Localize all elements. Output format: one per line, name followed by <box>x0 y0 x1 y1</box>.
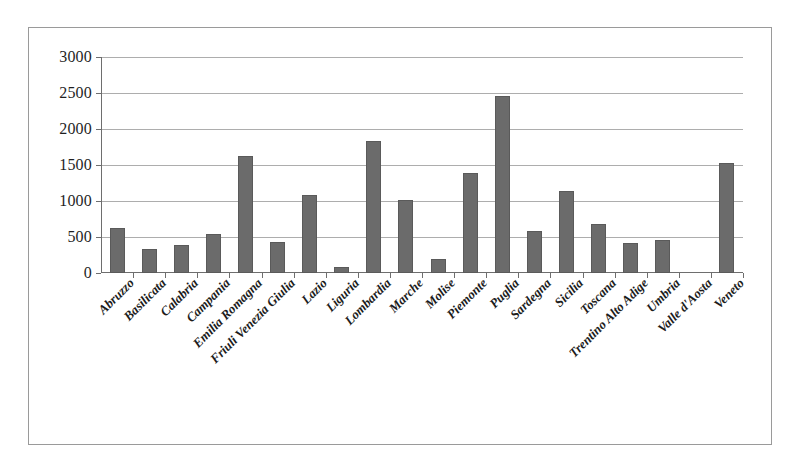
bar <box>463 173 478 273</box>
gridline <box>101 237 743 238</box>
gridline <box>101 57 743 58</box>
bar <box>174 245 189 273</box>
value-axis-tick-label: 2000 <box>59 121 92 137</box>
category-axis-tick-label: Marche <box>386 276 425 315</box>
bar <box>110 228 125 273</box>
value-axis-tick-label: 0 <box>84 265 92 281</box>
value-axis-tick <box>96 165 101 166</box>
bar <box>302 195 317 273</box>
gridline <box>101 165 743 166</box>
value-axis-tick <box>96 273 101 274</box>
plot-area: 050010001500200025003000 <box>101 57 743 273</box>
bar <box>398 200 413 273</box>
gridline <box>101 93 743 94</box>
value-axis-tick-label: 500 <box>67 229 92 245</box>
bar <box>431 259 446 273</box>
category-axis-tick <box>743 273 744 278</box>
bar <box>366 141 381 273</box>
bar <box>623 243 638 273</box>
bar <box>591 224 606 273</box>
bar <box>655 240 670 273</box>
bar <box>719 163 734 273</box>
gridline <box>101 129 743 130</box>
bar <box>495 96 510 273</box>
bar <box>334 267 349 273</box>
chart-frame: 050010001500200025003000 AbruzzoBasilica… <box>28 27 772 445</box>
value-axis-line <box>101 57 102 273</box>
category-axis-tick-label: Veneto <box>711 276 746 311</box>
value-axis-tick-label: 2500 <box>59 85 92 101</box>
value-axis-tick <box>96 129 101 130</box>
value-axis-tick <box>96 93 101 94</box>
bar <box>238 156 253 273</box>
value-axis-tick-label: 3000 <box>59 49 92 65</box>
value-axis-tick-label: 1000 <box>59 193 92 209</box>
bar <box>142 249 157 273</box>
bar <box>559 191 574 273</box>
bar <box>527 231 542 273</box>
category-axis-tick-labels: AbruzzoBasilicataCalabriaCampaniaEmilia … <box>101 276 743 426</box>
bar <box>206 234 221 273</box>
value-axis-tick <box>96 201 101 202</box>
value-axis-tick <box>96 57 101 58</box>
value-axis-tick <box>96 237 101 238</box>
gridline <box>101 201 743 202</box>
value-axis-tick-label: 1500 <box>59 157 92 173</box>
bar <box>270 242 285 273</box>
